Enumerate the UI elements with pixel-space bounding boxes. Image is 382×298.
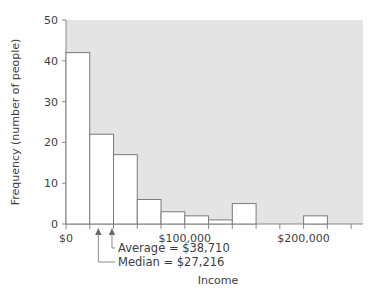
histogram-bar [185,216,209,224]
x-tick-label: $200,000 [277,232,330,245]
histogram-bar [137,200,161,224]
histogram-bar [304,216,328,224]
y-axis-title: Frequency (number of people) [9,39,22,206]
annotation-arrows [95,228,115,262]
y-tick-label: 0 [51,218,58,231]
annotation-arrow-median [95,228,101,235]
y-axis-ticks [62,20,66,224]
histogram-chart: 01020304050 $0$100,000$200,000 Average =… [0,0,382,298]
y-tick-label: 10 [44,177,58,190]
y-tick-label: 30 [44,96,58,109]
x-axis-ticks [66,224,351,229]
histogram-bar [114,155,138,224]
annotation-label-average: Average = $38,710 [118,241,230,255]
y-tick-label: 50 [44,14,58,27]
chart-svg: 01020304050 $0$100,000$200,000 Average =… [0,0,382,298]
histogram-bar [90,134,114,224]
histogram-bar [209,220,233,224]
histogram-bar [66,53,90,224]
annotation-arrow-average [109,228,115,235]
histogram-bar [232,204,256,224]
x-tick-label: $0 [59,232,73,245]
x-axis-title: Income [198,274,239,287]
y-tick-label: 40 [44,55,58,68]
histogram-bar [161,212,185,224]
annotation-label-median: Median = $27,216 [118,255,224,269]
y-tick-label: 20 [44,136,58,149]
y-axis-tick-labels: 01020304050 [44,14,58,231]
